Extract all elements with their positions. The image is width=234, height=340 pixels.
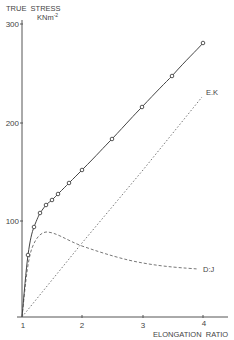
data-point: [110, 137, 114, 141]
data-point: [56, 192, 60, 196]
data-point: [170, 74, 174, 78]
series-experimental-markers: [26, 41, 205, 257]
data-point: [26, 253, 30, 257]
series-dj-curve: [22, 232, 198, 317]
data-point: [32, 225, 36, 229]
y-axis-title: TRUE STRESS: [6, 4, 61, 13]
series-ek-line: [22, 97, 202, 317]
data-point: [201, 41, 205, 45]
data-point: [38, 211, 42, 215]
x-tick-label-3: 3: [141, 321, 146, 330]
x-tick-label-4: 4: [202, 319, 207, 328]
y-tick-label-300: 300: [6, 20, 20, 29]
series-dj-label: D:J: [203, 265, 215, 274]
y-tick-label-100: 100: [6, 217, 20, 226]
y-tick-label-200: 200: [6, 119, 20, 128]
data-point: [67, 181, 71, 185]
y-axis-unit-exponent: -2: [54, 12, 59, 18]
stress-elongation-chart: 300 200 100 1 2 3 4 TRUE STRESS KNm-2 EL…: [0, 0, 234, 340]
x-tick-label-2: 2: [80, 321, 85, 330]
y-axis-unit: KNm-2: [37, 12, 58, 22]
data-point: [44, 203, 48, 207]
x-tick-label-1: 1: [21, 321, 26, 330]
series-ek-label: E.K: [206, 88, 218, 97]
data-point: [80, 168, 84, 172]
data-point: [50, 198, 54, 202]
x-axis-title: ELONGATION RATIO: [153, 330, 228, 339]
y-axis-unit-base: KNm: [37, 13, 54, 22]
series-experimental-curve: [22, 43, 203, 317]
data-point: [140, 105, 144, 109]
